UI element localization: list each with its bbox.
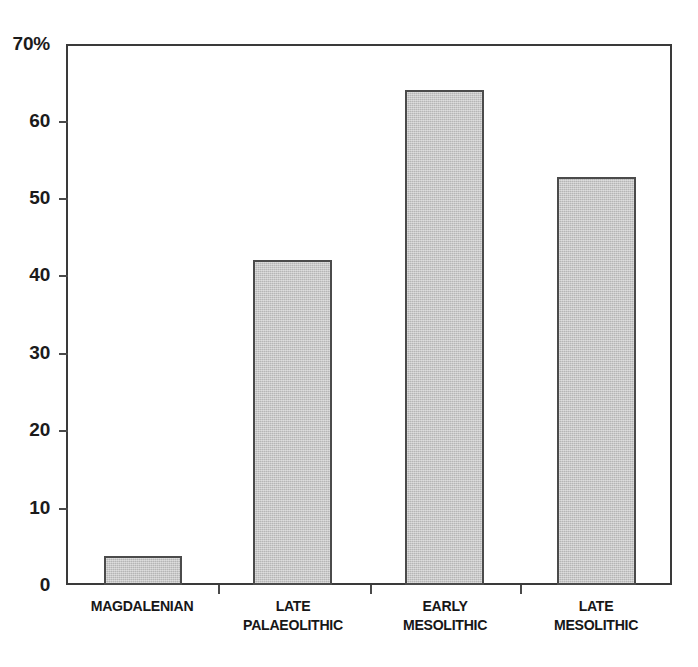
bars-group — [0, 0, 698, 667]
bar-late-mesolithic — [557, 177, 636, 585]
x-category-label-late-mesolithic: LATE MESOLITHIC — [525, 597, 668, 635]
x-category-label-magdalenian: MAGDALENIAN — [71, 597, 214, 616]
x-axis-labels: MAGDALENIAN LATE PALAEOLITHIC EARLY MESO… — [0, 597, 698, 667]
bar-magdalenian — [104, 556, 182, 585]
x-category-label-early-mesolithic: EARLY MESOLITHIC — [374, 597, 517, 635]
bar-late-palaeolithic — [253, 260, 332, 585]
bar-chart: 70% 60 50 40 30 20 10 0 MAGDALENIAN LATE… — [0, 0, 698, 667]
x-category-label-late-palaeolithic: LATE PALAEOLITHIC — [222, 597, 365, 635]
bar-early-mesolithic — [405, 90, 484, 585]
